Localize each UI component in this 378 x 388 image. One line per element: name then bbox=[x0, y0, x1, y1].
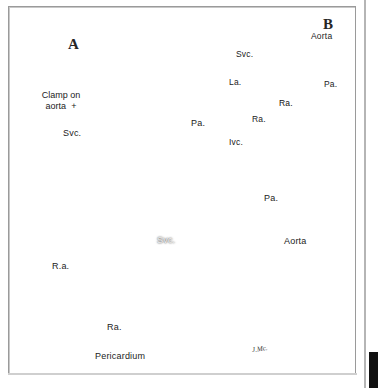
label-ra-lower: Ra. bbox=[107, 323, 122, 332]
label-svc-center: Svc. bbox=[157, 236, 175, 245]
label-svc-upper: Svc. bbox=[63, 129, 81, 138]
label-b-ra-center: Ra. bbox=[279, 99, 293, 108]
label-clamp-on-aorta: Clamp on aorta+ bbox=[28, 90, 94, 112]
panel-letter-a: A bbox=[68, 36, 79, 53]
label-b-aorta: Aorta bbox=[311, 32, 332, 41]
plate-bottom-shadow bbox=[8, 373, 357, 375]
label-b-ivc: Ivc. bbox=[229, 138, 243, 147]
plate-frame bbox=[8, 6, 356, 374]
label-b-svc: Svc. bbox=[236, 50, 253, 59]
label-pa-upper: Pa. bbox=[191, 119, 205, 128]
label-clamp-line1: Clamp on bbox=[42, 90, 81, 100]
label-b-la: La. bbox=[229, 78, 241, 87]
label-pericardium: Pericardium bbox=[95, 352, 145, 361]
label-aorta-right: Aorta bbox=[284, 237, 307, 246]
page-edge-dark-band bbox=[369, 352, 378, 388]
label-b-ra-left: Ra. bbox=[252, 115, 266, 124]
label-b-pa: Pa. bbox=[324, 80, 337, 89]
label-clamp-marker: + bbox=[71, 101, 76, 111]
label-ra-left: R.a. bbox=[52, 262, 69, 271]
figure-root: A B Clamp on aorta+ Svc. Pa. Pa. Aorta S… bbox=[0, 0, 378, 388]
page-gutter-line bbox=[364, 0, 366, 388]
label-clamp-line2: aorta bbox=[46, 101, 67, 111]
label-pa-right: Pa. bbox=[264, 194, 278, 203]
